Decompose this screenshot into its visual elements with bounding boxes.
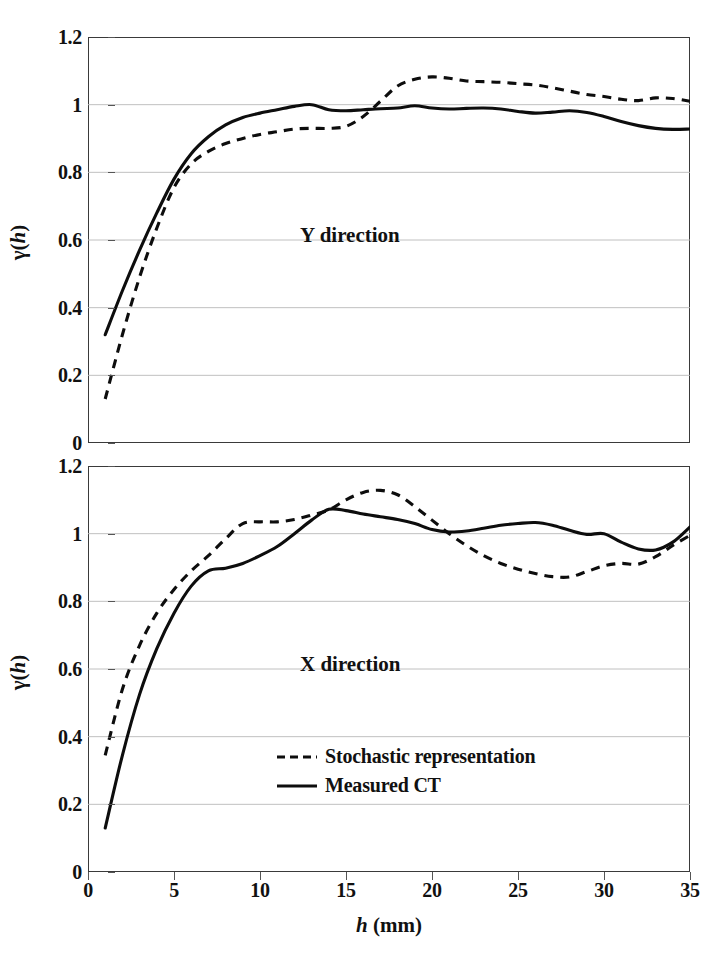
y-tick-label-0: 0 bbox=[30, 433, 82, 453]
x-tick-label-5: 5 bbox=[169, 880, 179, 900]
x-tick-label-35: 35 bbox=[680, 880, 699, 900]
chart-panel-y-direction: Y direction bbox=[88, 37, 690, 443]
y-axis-title-text-lower: γ(h) bbox=[6, 655, 30, 691]
y-tick-label-0.8: 0.8 bbox=[30, 162, 82, 182]
y-tick-mark-0.4 bbox=[108, 737, 115, 738]
y-tick-label-1.2: 1.2 bbox=[30, 456, 82, 476]
y-tick-mark-1 bbox=[108, 105, 115, 106]
x-tick-label-10: 10 bbox=[250, 880, 269, 900]
series-line-stochastic-representation bbox=[105, 490, 690, 755]
legend-item-measured-ct: Measured CT bbox=[276, 771, 596, 800]
x-tick-mark-10 bbox=[260, 872, 261, 880]
legend-item-stochastic: Stochastic representation bbox=[276, 742, 596, 771]
y-tick-mark-0.8 bbox=[108, 601, 115, 602]
y-tick-mark-1 bbox=[108, 534, 115, 535]
y-tick-mark-0 bbox=[108, 443, 115, 444]
x-tick-mark-25 bbox=[518, 872, 519, 880]
x-tick-mark-15 bbox=[346, 872, 347, 880]
y-tick-label-0.6: 0.6 bbox=[30, 230, 82, 250]
x-tick-label-0: 0 bbox=[83, 880, 93, 900]
y-tick-label-0.4: 0.4 bbox=[30, 298, 82, 318]
y-axis-title-upper: γ(h) bbox=[6, 208, 31, 278]
y-tick-label-0: 0 bbox=[30, 862, 82, 882]
x-tick-mark-30 bbox=[604, 872, 605, 880]
x-axis-title: h (mm) bbox=[88, 913, 690, 938]
x-tick-label-25: 25 bbox=[508, 880, 527, 900]
legend-label-stochastic: Stochastic representation bbox=[325, 745, 535, 768]
x-tick-mark-20 bbox=[432, 872, 433, 880]
x-tick-mark-35 bbox=[690, 872, 691, 880]
y-tick-label-1.2: 1.2 bbox=[30, 27, 82, 47]
y-tick-label-0.2: 0.2 bbox=[30, 794, 82, 814]
y-tick-mark-0.6 bbox=[108, 240, 115, 241]
y-tick-label-1: 1 bbox=[30, 524, 82, 544]
x-tick-label-15: 15 bbox=[336, 880, 355, 900]
x-tick-mark-0 bbox=[88, 872, 89, 880]
figure-container: Y direction 00.20.40.60.811.2 γ(h) X dir… bbox=[0, 0, 727, 960]
y-tick-mark-0.6 bbox=[108, 669, 115, 670]
y-tick-mark-0.2 bbox=[108, 375, 115, 376]
y-tick-mark-0.8 bbox=[108, 172, 115, 173]
panel-label-y-direction: Y direction bbox=[300, 223, 400, 248]
chart-panel-x-direction: X direction Stochastic representation Me… bbox=[88, 466, 690, 872]
x-tick-label-30: 30 bbox=[594, 880, 613, 900]
dashed-line-icon bbox=[276, 750, 318, 764]
panel-label-x-direction: X direction bbox=[300, 652, 401, 677]
y-axis-title-text-upper: γ(h) bbox=[6, 225, 30, 261]
chart-legend: Stochastic representation Measured CT bbox=[276, 742, 596, 800]
legend-label-measured-ct: Measured CT bbox=[325, 774, 441, 797]
solid-line-icon bbox=[276, 779, 318, 793]
series-line-measured-ct bbox=[105, 105, 690, 335]
x-tick-label-20: 20 bbox=[422, 880, 441, 900]
y-tick-label-0.4: 0.4 bbox=[30, 727, 82, 747]
y-axis-ticks-upper: 00.20.40.60.811.2 bbox=[26, 37, 82, 443]
y-tick-mark-1.2 bbox=[108, 37, 115, 38]
y-axis-ticks-lower: 00.20.40.60.811.2 bbox=[26, 466, 82, 872]
x-axis-title-text: h (mm) bbox=[356, 913, 422, 937]
y-tick-mark-0 bbox=[108, 872, 115, 873]
y-tick-mark-0.2 bbox=[108, 804, 115, 805]
y-tick-label-0.8: 0.8 bbox=[30, 591, 82, 611]
y-tick-label-0.2: 0.2 bbox=[30, 365, 82, 385]
y-tick-mark-1.2 bbox=[108, 466, 115, 467]
x-axis-tick-labels: 05101520253035 bbox=[88, 880, 690, 910]
y-tick-label-0.6: 0.6 bbox=[30, 659, 82, 679]
y-axis-title-lower: γ(h) bbox=[6, 638, 31, 708]
y-tick-label-1: 1 bbox=[30, 95, 82, 115]
y-tick-mark-0.4 bbox=[108, 308, 115, 309]
x-tick-mark-5 bbox=[174, 872, 175, 880]
